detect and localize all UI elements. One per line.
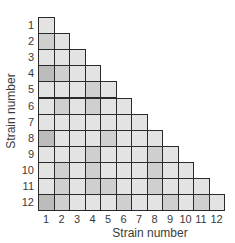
matrix-cell <box>38 178 55 195</box>
matrix-cell <box>69 178 86 195</box>
matrix-cell <box>38 65 55 82</box>
matrix-cell <box>54 65 71 82</box>
y-tick-label: 6 <box>18 100 34 112</box>
matrix-cell <box>147 146 164 163</box>
y-tick-label: 4 <box>18 67 34 79</box>
matrix-cell <box>131 146 148 163</box>
matrix-cell <box>38 81 55 98</box>
x-tick-label: 10 <box>178 213 194 225</box>
x-tick-label: 11 <box>193 213 209 225</box>
y-tick-label: 2 <box>18 35 34 47</box>
matrix-cell <box>85 114 102 131</box>
matrix-cell <box>131 114 148 131</box>
y-tick-label: 3 <box>18 51 34 63</box>
matrix-cell <box>69 98 86 115</box>
matrix-cell <box>54 146 71 163</box>
x-tick-label: 6 <box>116 213 132 225</box>
matrix-cell <box>209 194 226 211</box>
y-tick-label: 8 <box>18 132 34 144</box>
y-tick-label: 9 <box>18 148 34 160</box>
matrix-cell <box>38 146 55 163</box>
matrix-cell <box>178 162 195 179</box>
matrix-cell <box>147 178 164 195</box>
matrix-cell <box>69 65 86 82</box>
matrix-cell <box>38 49 55 66</box>
matrix-cell <box>116 162 133 179</box>
y-tick-label: 10 <box>18 164 34 176</box>
matrix-cell <box>100 162 117 179</box>
x-tick-label: 12 <box>209 213 225 225</box>
matrix-cell <box>116 146 133 163</box>
matrix-cell <box>85 130 102 147</box>
y-tick-label: 7 <box>18 116 34 128</box>
matrix-cell <box>54 194 71 211</box>
matrix-cell <box>116 114 133 131</box>
matrix-cell <box>69 49 86 66</box>
matrix-cell <box>131 178 148 195</box>
matrix-cell <box>54 49 71 66</box>
y-tick-label: 1 <box>18 19 34 31</box>
matrix-cell <box>193 194 210 211</box>
matrix-cell <box>100 98 117 115</box>
matrix-cell <box>100 194 117 211</box>
matrix-cell <box>85 65 102 82</box>
matrix-cell <box>54 130 71 147</box>
matrix-cell <box>54 81 71 98</box>
matrix-cell <box>116 130 133 147</box>
matrix-cell <box>69 114 86 131</box>
matrix-cell <box>54 178 71 195</box>
matrix-cell <box>162 146 179 163</box>
matrix-cell <box>69 162 86 179</box>
matrix-cell <box>147 130 164 147</box>
matrix-cell <box>85 81 102 98</box>
strain-similarity-matrix: 123456789101112 123456789101112 Strain n… <box>0 0 235 243</box>
matrix-cell <box>100 81 117 98</box>
matrix-cell <box>100 146 117 163</box>
x-tick-label: 4 <box>85 213 101 225</box>
matrix-cell <box>38 17 55 34</box>
y-axis-label: Strain number <box>4 56 18 166</box>
matrix-cell <box>100 178 117 195</box>
y-tick-label: 5 <box>18 83 34 95</box>
matrix-cell <box>178 178 195 195</box>
matrix-cell <box>54 114 71 131</box>
matrix-cell <box>131 162 148 179</box>
matrix-cell <box>100 130 117 147</box>
matrix-cell <box>162 178 179 195</box>
x-tick-label: 2 <box>54 213 70 225</box>
x-axis-label: Strain number <box>80 226 220 240</box>
matrix-cell <box>85 98 102 115</box>
matrix-cell <box>131 194 148 211</box>
matrix-cell <box>85 162 102 179</box>
matrix-cell <box>147 194 164 211</box>
y-tick-label: 12 <box>18 196 34 208</box>
matrix-cell <box>193 178 210 195</box>
matrix-cell <box>116 178 133 195</box>
matrix-cell <box>38 194 55 211</box>
matrix-cell <box>162 162 179 179</box>
y-tick-label: 11 <box>18 180 34 192</box>
matrix-cell <box>85 178 102 195</box>
matrix-cell <box>38 162 55 179</box>
x-tick-label: 3 <box>69 213 85 225</box>
matrix-cell <box>85 194 102 211</box>
matrix-cell <box>38 114 55 131</box>
matrix-cell <box>38 98 55 115</box>
matrix-cell <box>69 194 86 211</box>
matrix-cell <box>54 33 71 50</box>
x-tick-label: 1 <box>38 213 54 225</box>
matrix-cell <box>69 81 86 98</box>
x-tick-label: 7 <box>131 213 147 225</box>
matrix-cell <box>38 130 55 147</box>
matrix-cell <box>54 98 71 115</box>
matrix-cell <box>116 98 133 115</box>
x-tick-label: 5 <box>100 213 116 225</box>
matrix-cell <box>69 130 86 147</box>
matrix-cell <box>131 130 148 147</box>
x-tick-label: 9 <box>162 213 178 225</box>
matrix-cell <box>100 114 117 131</box>
matrix-cell <box>54 162 71 179</box>
matrix-cell <box>38 33 55 50</box>
matrix-cell <box>178 194 195 211</box>
matrix-cell <box>147 162 164 179</box>
